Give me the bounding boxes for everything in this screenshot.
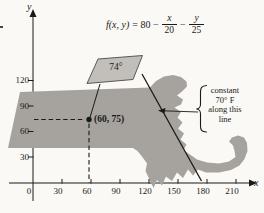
point-label: (60, 75)	[94, 114, 124, 124]
point-dot	[86, 117, 91, 122]
y-axis-label: y	[27, 1, 31, 12]
y-tick-label-120: 120	[6, 75, 29, 85]
x-tick-label-30: 30	[46, 186, 70, 196]
formula-fxy: f(x, y)	[106, 19, 129, 30]
x-tick-label-150: 150	[162, 186, 186, 196]
temperature-formula: f(x, y) = 80 − x 20 − y 25	[106, 13, 204, 36]
isotherm-callout: constant 70° F along this line	[201, 86, 249, 124]
x-axis-label: x	[254, 177, 258, 188]
formula-equals: = 80 −	[132, 19, 158, 30]
y-tick-label-60: 60	[6, 126, 29, 136]
scan-artifact	[0, 26, 3, 28]
x-tick-label-0: 0	[17, 186, 41, 196]
x-tick-label-60: 60	[75, 186, 99, 196]
callout-line-4: line	[201, 115, 249, 125]
formula-fraction-x-over-20: x 20	[162, 13, 178, 36]
x-tick-label-90: 90	[104, 186, 128, 196]
formula-fraction-y-over-25: y 25	[189, 13, 205, 36]
temperature-map-figure: f(x, y) = 80 − x 20 − y 25 x y 0 30 60 9…	[0, 0, 264, 213]
formula-minus: −	[180, 19, 186, 30]
x-tick-label-180: 180	[191, 186, 215, 196]
x-tick-label-210: 210	[220, 186, 244, 196]
temperature-tag-label: 74°	[103, 62, 129, 72]
y-tick-label-30: 30	[6, 152, 29, 162]
x-tick-label-120: 120	[133, 186, 157, 196]
y-tick-label-90: 90	[6, 101, 29, 111]
